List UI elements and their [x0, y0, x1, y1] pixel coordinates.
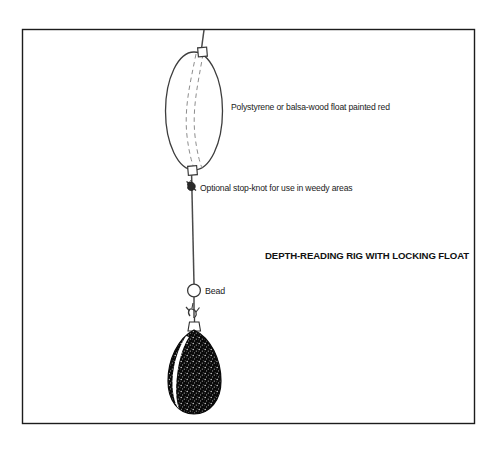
- float-label: Polystyrene or balsa-wood float painted …: [231, 102, 390, 112]
- stopknot-label: Optional stop-knot for use in weedy area…: [200, 183, 352, 193]
- bead-label: Bead: [205, 286, 225, 296]
- rig-diagram: Polystyrene or balsa-wood float painted …: [0, 0, 499, 452]
- bead: [188, 284, 201, 297]
- lead-weight: [168, 330, 221, 414]
- top-eyelet: [198, 47, 208, 57]
- figure-border: [23, 30, 475, 424]
- float: [166, 47, 223, 175]
- figure-title: DEPTH-READING RIG WITH LOCKING FLOAT: [265, 250, 469, 261]
- figure-canvas: Polystyrene or balsa-wood float painted …: [0, 0, 499, 452]
- stop-knot: [187, 180, 197, 191]
- bottom-eyelet: [188, 166, 198, 176]
